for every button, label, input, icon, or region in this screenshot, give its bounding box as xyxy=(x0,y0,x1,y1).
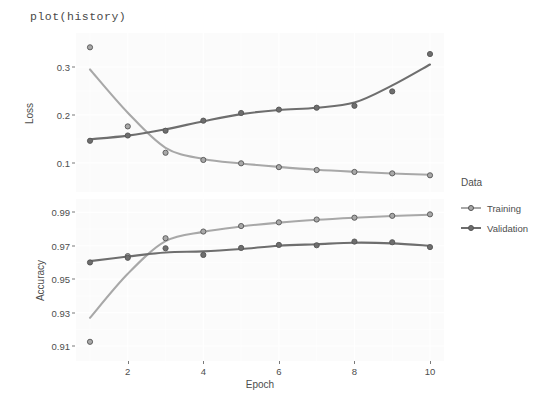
legend-key-training-icon xyxy=(461,201,481,215)
panel-loss xyxy=(76,33,444,192)
x-tick-label: 2 xyxy=(125,366,130,377)
y-tick-label: 0.1 xyxy=(26,157,70,168)
x-tick-mark xyxy=(128,361,129,364)
legend-key-validation-icon xyxy=(461,221,481,235)
y-tick-mark xyxy=(72,66,75,67)
x-tick-label: 6 xyxy=(276,366,281,377)
y-tick-mark xyxy=(72,245,75,246)
y-tick-mark xyxy=(72,312,75,313)
x-axis-title: Epoch xyxy=(76,379,444,390)
x-tick-label: 4 xyxy=(201,366,206,377)
x-tick-mark xyxy=(354,361,355,364)
legend-item-training[interactable]: Training xyxy=(461,198,553,218)
x-tick-mark xyxy=(279,361,280,364)
y-tick-mark xyxy=(72,162,75,163)
y-tick-label: 0.95 xyxy=(26,274,70,285)
y-tick-mark xyxy=(72,212,75,213)
y-tick-label: 0.97 xyxy=(26,240,70,251)
y-tick-mark xyxy=(72,345,75,346)
y-axis-title-accuracy: Accuracy xyxy=(35,236,46,326)
accuracy-plot-area xyxy=(76,199,444,361)
plot-title: plot(history) xyxy=(30,10,126,23)
y-tick-label: 0.3 xyxy=(26,61,70,72)
panel-accuracy xyxy=(76,199,444,361)
legend-item-validation[interactable]: Validation xyxy=(461,218,553,238)
legend-label-validation: Validation xyxy=(487,223,528,234)
legend: Data Training Validation xyxy=(461,177,553,238)
x-tick-mark xyxy=(203,361,204,364)
legend-title: Data xyxy=(461,177,553,188)
x-tick-label: 10 xyxy=(425,366,436,377)
y-tick-label: 0.91 xyxy=(26,340,70,351)
y-tick-mark xyxy=(72,114,75,115)
x-tick-mark xyxy=(430,361,431,364)
y-tick-label: 0.99 xyxy=(26,207,70,218)
loss-plot-area xyxy=(76,33,444,192)
legend-label-training: Training xyxy=(487,203,521,214)
y-axis-title-loss: Loss xyxy=(24,84,35,144)
y-tick-label: 0.93 xyxy=(26,307,70,318)
x-tick-label: 8 xyxy=(352,366,357,377)
plot-canvas: plot(history) 0.10.20.30.910.930.950.970… xyxy=(0,0,556,414)
y-tick-mark xyxy=(72,279,75,280)
